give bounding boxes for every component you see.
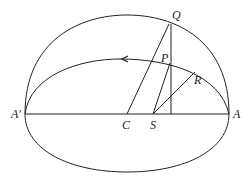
- line-CQ: [127, 24, 169, 114]
- auxiliary-circle-arc: [25, 15, 229, 114]
- label-A: A: [232, 107, 241, 121]
- label-C: C: [122, 118, 131, 132]
- label-S: S: [150, 118, 156, 132]
- label-Q: Q: [172, 8, 181, 22]
- line-SP: [153, 63, 170, 114]
- diagram-canvas: Q P R A′ C S A: [0, 0, 249, 180]
- label-P: P: [160, 51, 169, 65]
- label-A-prime: A′: [10, 107, 21, 121]
- line-SR: [153, 72, 195, 114]
- label-R: R: [193, 73, 202, 87]
